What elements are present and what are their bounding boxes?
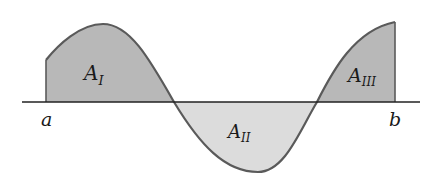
region-3-fill	[317, 22, 395, 102]
label-b: b	[389, 108, 401, 130]
region-1-fill	[46, 24, 174, 102]
label-a: a	[41, 108, 52, 130]
area-under-curve-diagram: a b AI AII AIII	[0, 0, 442, 176]
